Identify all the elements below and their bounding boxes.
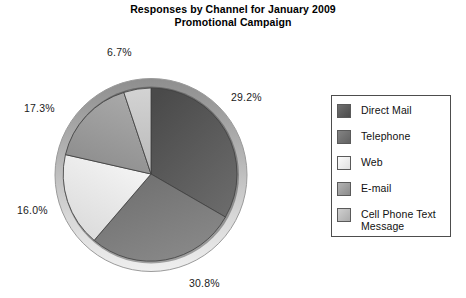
legend-item-direct-mail[interactable]: Direct Mail	[337, 104, 449, 118]
legend-label-direct-mail: Direct Mail	[361, 104, 412, 116]
legend-label-email: E-mail	[361, 182, 391, 194]
pie-label-email: 17.3%	[24, 102, 55, 114]
legend-label-web: Web	[361, 156, 383, 168]
legend-swatch-telephone	[337, 130, 351, 144]
title-line-1: Responses by Channel for January 2009	[0, 3, 466, 16]
pie-label-cell-phone: 6.7%	[107, 46, 132, 58]
chart-canvas: Responses by Channel for January 2009 Pr…	[0, 0, 466, 298]
legend-swatch-email	[337, 182, 351, 196]
pie-chart-svg	[53, 76, 251, 276]
pie-chart	[53, 76, 251, 276]
legend-item-telephone[interactable]: Telephone	[337, 130, 449, 144]
legend-swatch-direct-mail	[337, 104, 351, 118]
pie-label-telephone: 30.8%	[189, 277, 220, 289]
legend-item-web[interactable]: Web	[337, 156, 449, 170]
pie-slice-group	[63, 88, 237, 261]
legend-label-telephone: Telephone	[361, 130, 410, 142]
legend-item-email[interactable]: E-mail	[337, 182, 449, 196]
page-title: Responses by Channel for January 2009 Pr…	[0, 3, 466, 28]
pie-label-direct-mail: 29.2%	[231, 91, 262, 103]
title-line-2: Promotional Campaign	[0, 16, 466, 29]
chart-legend: Direct Mail Telephone Web E-mail Cell Ph…	[331, 95, 451, 237]
legend-swatch-cell-phone-text-message	[337, 208, 351, 222]
legend-label-cell-phone-text-message: Cell Phone Text Message	[361, 208, 449, 232]
legend-swatch-web	[337, 156, 351, 170]
pie-label-web: 16.0%	[17, 204, 48, 216]
legend-item-cell-phone-text-message[interactable]: Cell Phone Text Message	[337, 208, 449, 232]
